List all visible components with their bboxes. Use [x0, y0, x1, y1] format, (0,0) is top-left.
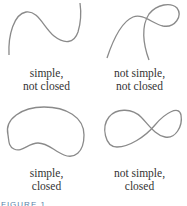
figure-caption: FIGURE 1 [1, 200, 46, 206]
label-line1: simple, [0, 67, 93, 80]
panel-not-simple-not-closed: not simple, not closed [93, 0, 186, 100]
label-line2: closed [0, 180, 93, 193]
label-line2: closed [93, 180, 186, 193]
open-simple-curve-icon [0, 0, 93, 62]
panel-simple-closed: simple, closed [0, 103, 93, 203]
label-line1: simple, [0, 167, 93, 180]
open-self-intersecting-curve-icon [93, 0, 186, 62]
label-line2: not closed [93, 80, 186, 93]
closed-simple-curve-icon [0, 103, 93, 163]
label-line2: not closed [0, 80, 93, 93]
label-line1: not simple, [93, 67, 186, 80]
panel-simple-not-closed: simple, not closed [0, 0, 93, 100]
panel-not-simple-closed: not simple, closed [93, 103, 186, 203]
label-line1: not simple, [93, 167, 186, 180]
closed-figure-eight-curve-icon [93, 103, 186, 163]
